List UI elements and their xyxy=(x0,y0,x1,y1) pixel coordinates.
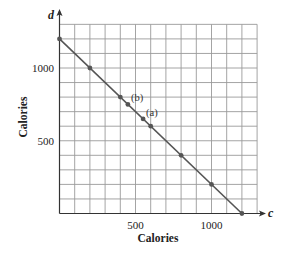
axes: 50010005001000 xyxy=(32,9,266,231)
data-point xyxy=(88,66,93,71)
y-variable-label: d xyxy=(48,8,55,22)
chart: 50010005001000 (b)(a) Calories Calories … xyxy=(0,0,282,254)
point-annotation: (a) xyxy=(146,107,158,119)
data-point xyxy=(118,95,123,100)
x-variable-label: c xyxy=(268,206,274,220)
data-point xyxy=(57,37,62,42)
data-point xyxy=(141,117,146,122)
x-tick-label: 500 xyxy=(127,219,144,231)
y-axis-title: Calories xyxy=(17,96,29,137)
y-tick-label: 1000 xyxy=(32,62,55,74)
data-point xyxy=(240,211,245,216)
data-point xyxy=(126,102,131,107)
x-tick-label: 1000 xyxy=(201,219,224,231)
data-point xyxy=(179,153,184,158)
grid xyxy=(60,24,258,213)
x-axis-title: Calories xyxy=(138,232,179,244)
data-point xyxy=(209,182,214,187)
y-tick-label: 500 xyxy=(38,135,55,147)
data-point xyxy=(148,124,153,129)
point-annotation: (b) xyxy=(131,92,144,104)
